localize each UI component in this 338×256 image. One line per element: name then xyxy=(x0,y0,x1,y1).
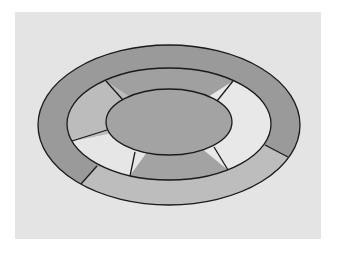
concentric-ellipse-diagram xyxy=(0,0,338,256)
inner-ellipse xyxy=(106,89,232,155)
